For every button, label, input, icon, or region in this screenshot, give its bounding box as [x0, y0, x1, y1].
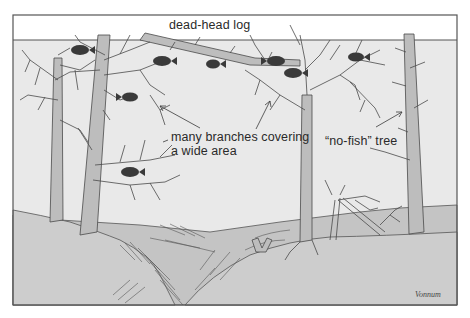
- fish-icon: [348, 53, 364, 62]
- habitat-illustration: [0, 0, 470, 318]
- fish-icon: [284, 68, 302, 78]
- fish-icon: [267, 56, 285, 66]
- branches-label-line2: a wide area: [171, 144, 237, 158]
- branches-label-line1: many branches covering: [171, 130, 309, 144]
- no-fish-tree-label: “no-fish” tree: [325, 134, 397, 148]
- dead-head-log-label: dead-head log: [169, 18, 250, 32]
- fish-icon: [121, 167, 139, 177]
- fish-icon: [153, 56, 171, 66]
- fish-icon: [122, 93, 138, 102]
- fish-icon: [71, 45, 89, 55]
- fish-icon: [206, 60, 220, 69]
- artist-signature: Vonnum: [415, 290, 441, 299]
